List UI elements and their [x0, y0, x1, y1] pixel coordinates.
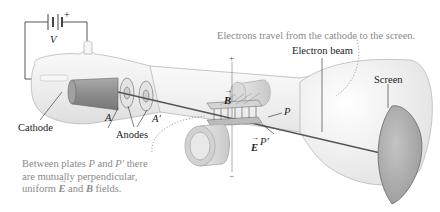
battery-voltage-label: V	[50, 35, 56, 46]
plus-sign-label: +	[229, 54, 234, 63]
e-field-label: E	[251, 142, 258, 153]
electron-beam-label: Electron beam	[292, 46, 353, 57]
coil-front	[185, 124, 230, 166]
anodes-label: Anodes	[116, 130, 148, 141]
b-field-label: B	[224, 95, 231, 106]
anode-a-label: A	[105, 113, 111, 124]
anode-a-prime-label: A′	[152, 114, 161, 125]
cathode-label: Cathode	[18, 123, 53, 134]
travel-note: Electrons travel from the cathode to the…	[217, 30, 415, 43]
plate-p-prime-label: P′	[260, 137, 269, 148]
screen-label: Screen	[374, 75, 403, 86]
battery-icon	[48, 14, 62, 30]
minus-sign-label: −	[229, 172, 234, 181]
bulb-reflection	[40, 75, 68, 81]
plates-note: Between plates P and P′ there are mutual…	[22, 158, 148, 196]
battery-plus-label: +	[64, 10, 70, 20]
plate-p-label: P	[284, 107, 290, 118]
